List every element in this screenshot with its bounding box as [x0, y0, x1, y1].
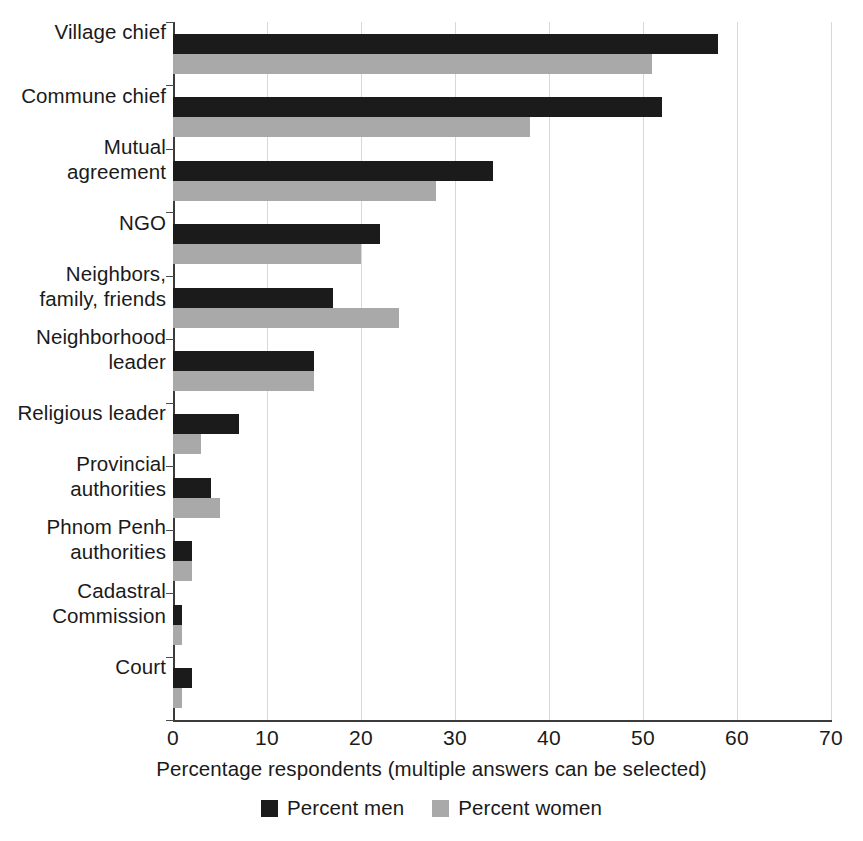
legend-item: Percent men — [261, 796, 404, 820]
chart-legend: Percent menPercent women — [0, 796, 863, 820]
category-label: Phnom Penh authorities — [3, 514, 166, 564]
bar-men — [173, 224, 380, 244]
bar-women — [173, 498, 220, 518]
legend-swatch-icon — [261, 800, 278, 817]
bar-men — [173, 478, 211, 498]
x-tick-label: 40 — [537, 726, 561, 750]
category-label: Neighbors, family, friends — [3, 261, 166, 311]
bar-men — [173, 414, 239, 434]
x-tick-label: 0 — [167, 726, 179, 750]
bar-men — [173, 97, 662, 117]
bar-women — [173, 688, 182, 708]
bar-chart: Village chiefCommune chiefMutual agreeme… — [0, 0, 863, 841]
plot-area — [173, 22, 831, 720]
bar-women — [173, 625, 182, 645]
category-label: Commune chief — [3, 83, 166, 108]
bar-men — [173, 668, 192, 688]
x-tick-label: 20 — [349, 726, 373, 750]
bar-men — [173, 34, 718, 54]
category-label: Mutual agreement — [3, 134, 166, 184]
bar-women — [173, 434, 201, 454]
y-tick — [166, 720, 174, 721]
category-label: Provincial authorities — [3, 451, 166, 501]
legend-label: Percent women — [458, 796, 602, 820]
bar-women — [173, 181, 436, 201]
category-label: Village chief — [3, 19, 166, 44]
y-axis-category-labels: Village chiefCommune chiefMutual agreeme… — [0, 0, 166, 698]
legend-item: Percent women — [432, 796, 602, 820]
category-label: Religious leader — [3, 400, 166, 425]
legend-label: Percent men — [287, 796, 404, 820]
category-label: Court — [3, 654, 166, 679]
category-label: Cadastral Commission — [3, 578, 166, 628]
bar-women — [173, 308, 399, 328]
bar-women — [173, 54, 652, 74]
x-tick-label: 50 — [631, 726, 655, 750]
legend-swatch-icon — [432, 800, 449, 817]
x-tick-label: 60 — [725, 726, 749, 750]
x-axis-title: Percentage respondents (multiple answers… — [0, 757, 863, 781]
bar-women — [173, 244, 361, 264]
bar-men — [173, 288, 333, 308]
bar-men — [173, 161, 493, 181]
category-label: Neighborhood leader — [3, 324, 166, 374]
bar-women — [173, 117, 530, 137]
bar-men — [173, 541, 192, 561]
bar-women — [173, 371, 314, 391]
x-axis-line — [173, 720, 832, 722]
x-tick-label: 70 — [819, 726, 843, 750]
x-tick-label: 10 — [255, 726, 279, 750]
x-tick-label: 30 — [443, 726, 467, 750]
gridline-70 — [831, 22, 832, 720]
category-label: NGO — [3, 210, 166, 235]
bar-men — [173, 605, 182, 625]
bar-men — [173, 351, 314, 371]
bar-women — [173, 561, 192, 581]
